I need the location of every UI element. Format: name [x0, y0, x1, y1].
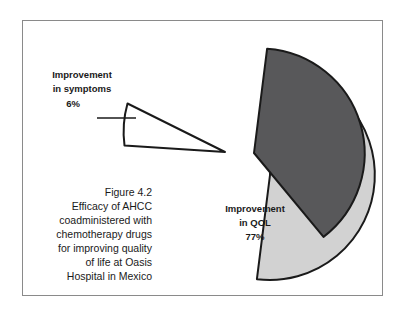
pie-chart: Improvement in symptoms 6% Progression o…: [0, 0, 408, 320]
caption-line-3: coadministered with: [59, 214, 152, 226]
callout-label-line2: in symptoms: [53, 83, 112, 94]
caption-line-5: for improving quality: [58, 242, 153, 254]
slice-label-qol-line3: 77%: [245, 231, 265, 242]
callout-label-line1: Improvement: [52, 69, 112, 80]
pie-slice-improvement-in-symptoms[interactable]: [124, 104, 225, 153]
slice-label-progression-line2: symptoms: [198, 80, 246, 91]
caption-line-6: of life at Oasis: [85, 256, 152, 268]
figure-page: Improvement in symptoms 6% Progression o…: [0, 0, 408, 320]
slice-label-progression-line3: 17%: [212, 94, 232, 105]
caption-line-1: Figure 4.2: [105, 186, 152, 198]
caption-line-7: Hospital in Mexico: [67, 270, 152, 282]
caption-line-4: chemotherapy drugs: [56, 228, 152, 240]
slice-label-progression-line1: Progression of: [188, 66, 256, 77]
slice-label-qol-line1: Improvement: [225, 203, 285, 214]
caption-line-2: Efficacy of AHCC: [72, 200, 153, 212]
slice-label-qol-line2: in QOL: [239, 217, 271, 228]
callout-label-line3: 6%: [66, 98, 80, 109]
figure-caption: Figure 4.2 Efficacy of AHCC coadminister…: [56, 186, 152, 282]
